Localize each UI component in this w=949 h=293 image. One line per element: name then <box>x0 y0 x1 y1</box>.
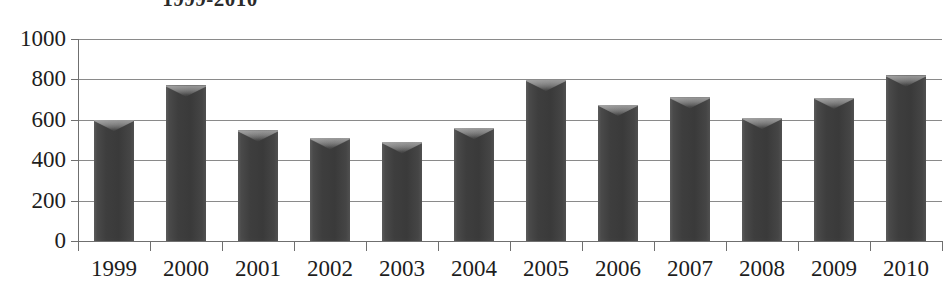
x-axis-tick <box>294 241 295 251</box>
x-axis-tick <box>798 241 799 251</box>
bar-chart-figure: 1999-2010 02004006008001000 199920002001… <box>0 0 949 293</box>
x-axis-tick <box>870 241 871 251</box>
x-axis-tick <box>150 241 151 251</box>
x-axis-tick <box>654 241 655 251</box>
bar <box>598 105 638 241</box>
y-axis-tick <box>71 201 79 202</box>
y-axis-tick-label: 800 <box>2 67 66 90</box>
bar <box>886 75 926 241</box>
bar <box>742 118 782 241</box>
x-axis-tick-label: 2008 <box>726 256 798 282</box>
x-axis-tick-label: 1999 <box>78 256 150 282</box>
x-axis-tick-label: 2002 <box>294 256 366 282</box>
y-axis-tick <box>71 160 79 161</box>
y-axis-tick <box>71 39 79 40</box>
x-axis-tick-label: 2005 <box>510 256 582 282</box>
bar <box>166 85 206 241</box>
bar <box>454 128 494 241</box>
x-axis-tick <box>438 241 439 251</box>
x-axis-tick <box>222 241 223 251</box>
x-axis-tick <box>582 241 583 251</box>
y-axis-tick-label: 200 <box>2 189 66 212</box>
x-axis-tick-label: 2010 <box>870 256 942 282</box>
y-axis-tick-label: 400 <box>2 148 66 171</box>
x-axis-tick <box>510 241 511 251</box>
x-axis-tick <box>78 241 79 251</box>
bar <box>670 97 710 241</box>
y-axis-tick <box>71 79 79 80</box>
bar <box>94 120 134 241</box>
y-axis-tick-label: 600 <box>2 108 66 131</box>
bars-layer <box>78 39 942 241</box>
x-axis-tick-label: 2001 <box>222 256 294 282</box>
y-axis-tick-label: 0 <box>2 229 66 252</box>
x-axis-tick-label: 2007 <box>654 256 726 282</box>
bar <box>238 130 278 241</box>
bar <box>310 138 350 241</box>
y-axis-labels: 02004006008001000 <box>0 0 66 293</box>
x-axis-tick-label: 2009 <box>798 256 870 282</box>
y-axis-tick-label: 1000 <box>2 27 66 50</box>
x-axis-tick-label: 2000 <box>150 256 222 282</box>
x-axis-tick-label: 2004 <box>438 256 510 282</box>
x-axis-tick <box>726 241 727 251</box>
x-axis-tick-label: 2003 <box>366 256 438 282</box>
bar <box>382 142 422 241</box>
bar <box>814 98 854 241</box>
y-axis-tick <box>71 120 79 121</box>
x-axis-tick-label: 2006 <box>582 256 654 282</box>
x-axis-tick <box>366 241 367 251</box>
bar <box>526 80 566 241</box>
x-axis-tick <box>942 241 943 251</box>
